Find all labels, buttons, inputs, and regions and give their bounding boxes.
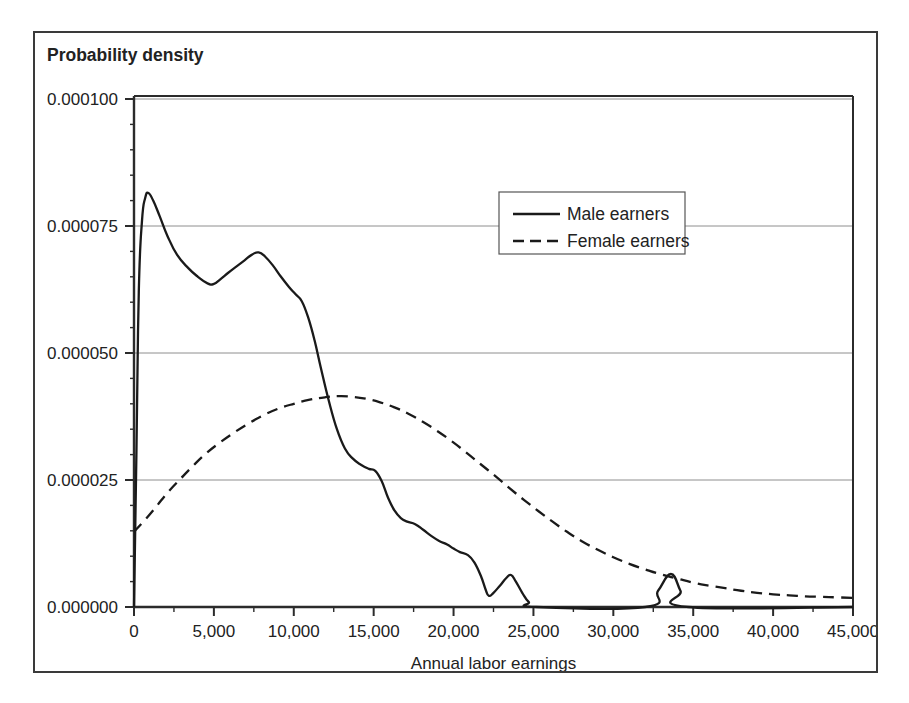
x-tick-label: 45,000 [827, 622, 876, 641]
x-tick-label: 0 [129, 622, 138, 641]
x-axis-title: Annual labor earnings [411, 654, 576, 671]
y-tick-label: 0.000100 [47, 90, 118, 109]
y-tick-label: 0.000025 [47, 471, 118, 490]
x-tick-label: 35,000 [667, 622, 719, 641]
x-tick-label: 20,000 [428, 622, 480, 641]
x-tick-label: 25,000 [507, 622, 559, 641]
chart-background [35, 33, 876, 671]
y-tick-label: 0.000075 [47, 217, 118, 236]
x-tick-label: 40,000 [747, 622, 799, 641]
x-tick-label: 5,000 [193, 622, 236, 641]
figure-frame: Probability density 0.0000000.0000250.00… [33, 31, 878, 673]
legend-label-female: Female earners [567, 231, 690, 251]
page-title: Probability density [47, 45, 204, 65]
chart-legend: Male earners Female earners [499, 192, 690, 254]
y-tick-label: 0.000050 [47, 344, 118, 363]
y-tick-label: 0.000000 [47, 598, 118, 617]
x-tick-label: 30,000 [587, 622, 639, 641]
legend-label-male: Male earners [567, 204, 669, 224]
probability-density-chart: Probability density 0.0000000.0000250.00… [35, 33, 876, 671]
x-tick-label: 15,000 [348, 622, 400, 641]
x-tick-label: 10,000 [268, 622, 320, 641]
